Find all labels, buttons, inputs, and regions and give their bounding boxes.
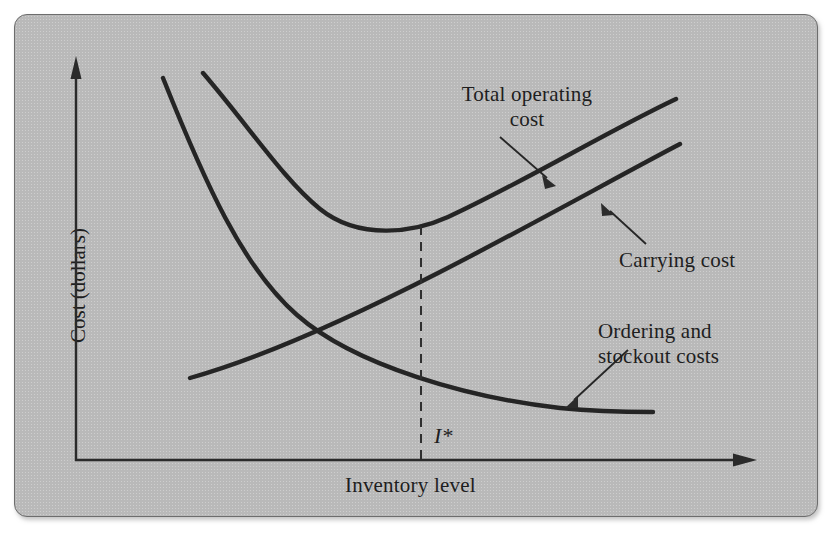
annotation-total-operating-cost: Total operating cost [437, 82, 617, 132]
figure-screenshot: Cost (dollars) [0, 0, 828, 535]
x-axis-label: Inventory level [345, 473, 476, 498]
x-axis [75, 454, 757, 467]
x-axis-arrowhead [733, 454, 757, 467]
optimum-marker-label: I* [434, 423, 453, 449]
y-axis-arrowhead [71, 56, 82, 79]
leader-total-operating-cost [500, 137, 556, 189]
annotation-carrying-cost: Carrying cost [619, 248, 735, 273]
y-axis [71, 56, 82, 461]
leader-carrying-cost [601, 203, 646, 244]
annotation-ordering-and-stockout-costs: Ordering and stockout costs [598, 319, 719, 369]
